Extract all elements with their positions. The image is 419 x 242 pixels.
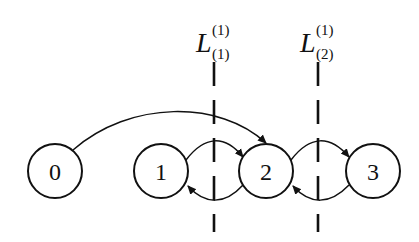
cut-label-2: L (1) (2) xyxy=(299,22,334,63)
node-0: 0 xyxy=(28,144,82,198)
svg-text:1: 1 xyxy=(155,159,167,185)
svg-text:(2): (2) xyxy=(316,46,334,63)
node-1: 1 xyxy=(134,144,188,198)
svg-text:L: L xyxy=(195,27,212,58)
svg-text:3: 3 xyxy=(367,159,379,185)
node-2: 2 xyxy=(239,144,293,198)
edge-2-to-3 xyxy=(291,141,349,160)
svg-text:(1): (1) xyxy=(212,22,230,39)
svg-text:L: L xyxy=(299,27,316,58)
diagram-canvas: L (1) (1) L (1) (2) 0 1 2 3 xyxy=(0,0,419,242)
svg-text:2: 2 xyxy=(260,159,272,185)
svg-text:(1): (1) xyxy=(316,22,334,39)
cut-label-1: L (1) (1) xyxy=(195,22,230,63)
svg-text:(1): (1) xyxy=(212,46,230,63)
node-3: 3 xyxy=(346,144,400,198)
edge-2-to-1 xyxy=(188,185,243,200)
edge-0-to-2 xyxy=(73,112,266,150)
svg-text:0: 0 xyxy=(49,159,61,185)
edge-3-to-2 xyxy=(293,185,349,200)
